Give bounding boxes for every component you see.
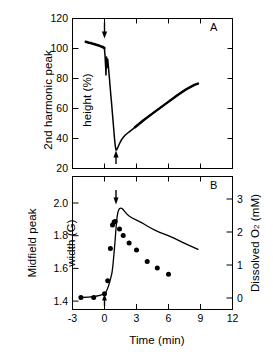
panel-label-b: B bbox=[210, 179, 217, 191]
panel-a-y-axis-title-line1: 2nd harmonic peak bbox=[42, 20, 55, 180]
panel-b-y-axis-title: Midfield peak width (G) bbox=[0, 178, 28, 308]
data-point bbox=[145, 259, 150, 264]
data-point bbox=[166, 272, 171, 277]
xtick--3: -3 bbox=[62, 313, 83, 324]
right-axis-title-subscript: 2 bbox=[252, 224, 261, 229]
data-point bbox=[121, 233, 126, 238]
xtick-6: 6 bbox=[159, 313, 179, 324]
figure-root: 120 100 80 60 40 20 2.0 1.8 1.6 1.4 3 2 … bbox=[0, 0, 273, 357]
right-axis-title-post: (mM) bbox=[249, 194, 261, 225]
panel-b-y-axis-title-line1: Midfield peak bbox=[26, 178, 39, 308]
data-point bbox=[105, 278, 110, 283]
data-point bbox=[113, 219, 118, 224]
xtick-3: 3 bbox=[127, 313, 147, 324]
panel-a-trace-recovery-band bbox=[135, 84, 198, 128]
panel-b-right-ytick-2: 2 bbox=[237, 227, 249, 238]
data-point bbox=[127, 241, 132, 246]
panel-b-right-ytick-3: 3 bbox=[237, 194, 249, 205]
panel-b-yticks-right bbox=[227, 199, 233, 298]
right-axis-title-pre: Dissolved O bbox=[249, 229, 261, 292]
panel-a-yticks-right bbox=[228, 49, 233, 139]
panel-b-right-ytick-0: 0 bbox=[237, 293, 249, 304]
xtick-0: 0 bbox=[95, 313, 115, 324]
panel-a-y-axis-title-line2: height (%) bbox=[81, 20, 94, 180]
panel-b-xticks-bottom bbox=[105, 304, 201, 310]
data-point bbox=[108, 246, 113, 251]
x-axis-title: Time (min) bbox=[112, 334, 202, 347]
panel-b-arrow-down-t1 bbox=[114, 190, 119, 205]
panel-b-y-axis-title-line2: width (G) bbox=[65, 178, 78, 308]
panel-a-y-axis-title: 2nd harmonic peak height (%) bbox=[16, 20, 44, 180]
panel-label-a: A bbox=[210, 21, 217, 33]
xtick-12: 12 bbox=[223, 313, 243, 324]
panel-b-right-ytick-1: 1 bbox=[237, 260, 249, 271]
data-point bbox=[155, 266, 160, 271]
data-point bbox=[117, 226, 122, 231]
panel-b-right-y-axis-title: Dissolved O2 (mM) bbox=[249, 178, 263, 308]
xtick-9: 9 bbox=[191, 313, 211, 324]
data-point bbox=[134, 248, 139, 253]
